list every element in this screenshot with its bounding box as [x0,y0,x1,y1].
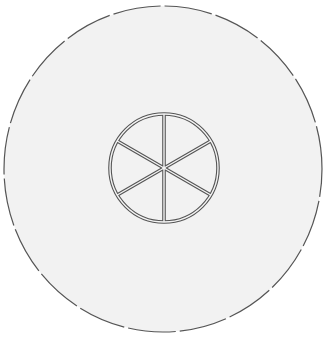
table-top-drawing [0,0,330,340]
wheel-hub [162,166,165,169]
diagram-canvas: Round table top view with six-spoke cent… [0,0,330,340]
